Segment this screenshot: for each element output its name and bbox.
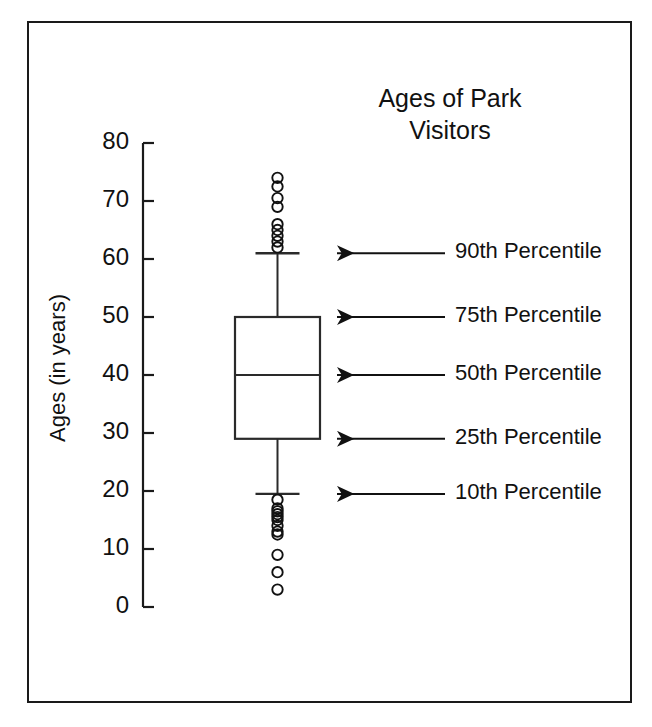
outlier-point-low	[272, 567, 282, 577]
outlier-point-low	[272, 550, 282, 560]
box-iqr	[235, 317, 320, 439]
annotation-arrows	[337, 253, 445, 494]
box-plot-graphic	[0, 0, 652, 727]
y-axis-ticks	[143, 143, 154, 607]
y-axis	[143, 143, 154, 607]
figure-canvas: Ages of ParkVisitors Ages (in years) 807…	[0, 0, 652, 727]
outlier-point-low	[272, 584, 282, 594]
outlier-points	[272, 173, 282, 595]
box-whisker-group	[235, 253, 320, 494]
